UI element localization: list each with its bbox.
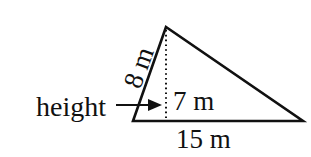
left-side-label: 8 m xyxy=(117,43,159,92)
height-word-label: height xyxy=(36,91,106,122)
base-label: 15 m xyxy=(176,124,231,154)
height-value-label: 7 m xyxy=(173,86,214,116)
arrow-head-icon xyxy=(148,99,162,111)
triangle xyxy=(133,27,303,121)
triangle-diagram: height 7 m 15 m 8 m xyxy=(0,0,311,157)
